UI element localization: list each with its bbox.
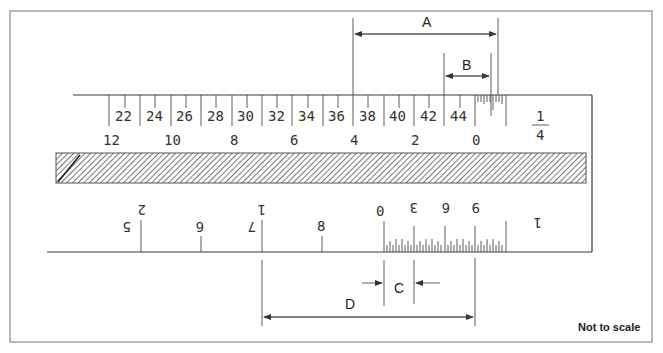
vernier-label: 12	[103, 132, 120, 148]
svg-text:A: A	[422, 14, 432, 30]
main-label: 44	[450, 108, 467, 124]
diagram-canvas: 22 24 26 28 30 32 34 36 38 40 42 44 12 1…	[0, 0, 663, 353]
svg-text:6: 6	[442, 200, 450, 216]
svg-text:D: D	[345, 296, 355, 312]
main-label: 34	[298, 108, 315, 124]
dimension-A: A	[353, 14, 498, 95]
main-label: 24	[146, 108, 163, 124]
main-label: 32	[268, 108, 285, 124]
not-to-scale-note: Not to scale	[578, 321, 640, 333]
vernier-label: 2	[411, 132, 419, 148]
lower-main-labels: 5 6 7 8 2 1	[123, 202, 326, 235]
svg-text:3: 3	[410, 200, 418, 216]
main-label: 28	[207, 108, 224, 124]
svg-text:9: 9	[472, 200, 480, 216]
vernier-label: 6	[290, 132, 298, 148]
vernier-labels-upper: 12 10 8 6 4 2 0	[103, 132, 480, 148]
svg-text:2: 2	[138, 202, 146, 218]
main-label: 30	[237, 108, 254, 124]
dimension-D: D	[262, 258, 475, 326]
dimension-C: C	[362, 260, 440, 306]
unit-glyph: 1	[534, 215, 542, 231]
vernier-label: 0	[472, 132, 480, 148]
vernier-label: 4	[350, 132, 358, 148]
svg-text:6: 6	[196, 219, 204, 235]
caliper-diagram: 22 24 26 28 30 32 34 36 38 40 42 44 12 1…	[0, 0, 663, 353]
main-label: 38	[359, 108, 376, 124]
svg-text:0: 0	[376, 203, 384, 219]
vernier-label: 8	[230, 132, 238, 148]
main-label: 36	[328, 108, 345, 124]
svg-text:5: 5	[123, 219, 131, 235]
svg-text:8: 8	[317, 218, 325, 234]
main-label: 22	[115, 108, 132, 124]
lower-vernier-labels: 0 3 6 9 1	[376, 200, 542, 231]
hatched-beam	[56, 153, 586, 183]
dimension-B: B	[444, 53, 491, 116]
svg-text:7: 7	[248, 219, 256, 235]
svg-text:B: B	[462, 57, 471, 73]
lower-vernier-ticks	[384, 221, 506, 252]
svg-text:1: 1	[536, 108, 544, 124]
svg-text:1: 1	[258, 202, 266, 218]
main-label: 26	[176, 108, 193, 124]
svg-text:C: C	[394, 280, 404, 296]
main-label: 42	[420, 108, 437, 124]
vernier-label: 10	[164, 132, 181, 148]
main-label: 40	[389, 108, 406, 124]
svg-text:4: 4	[536, 127, 544, 143]
fraction-label: 1 4	[532, 108, 549, 143]
lower-scale: 5 6 7 8 2 1	[47, 200, 542, 252]
